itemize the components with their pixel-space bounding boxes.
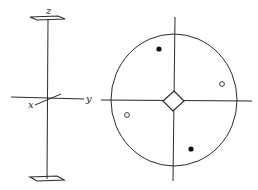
- stereogram: [101, 17, 252, 181]
- open-pole-right: [220, 82, 225, 87]
- x-axis-label: x: [28, 99, 34, 110]
- z-axis-label: z: [45, 5, 52, 16]
- axis-frame: z x y: [11, 5, 92, 181]
- open-pole-left: [125, 113, 130, 118]
- y-axis-label: y: [85, 93, 92, 104]
- filled-pole-lower-right: [188, 146, 193, 151]
- z-axis-line: [47, 19, 48, 179]
- filled-pole-upper-left: [156, 46, 161, 51]
- top-plate: [30, 16, 65, 20]
- center-diamond-symbol: [163, 91, 184, 111]
- crystal-symmetry-figure: z x y: [0, 0, 258, 190]
